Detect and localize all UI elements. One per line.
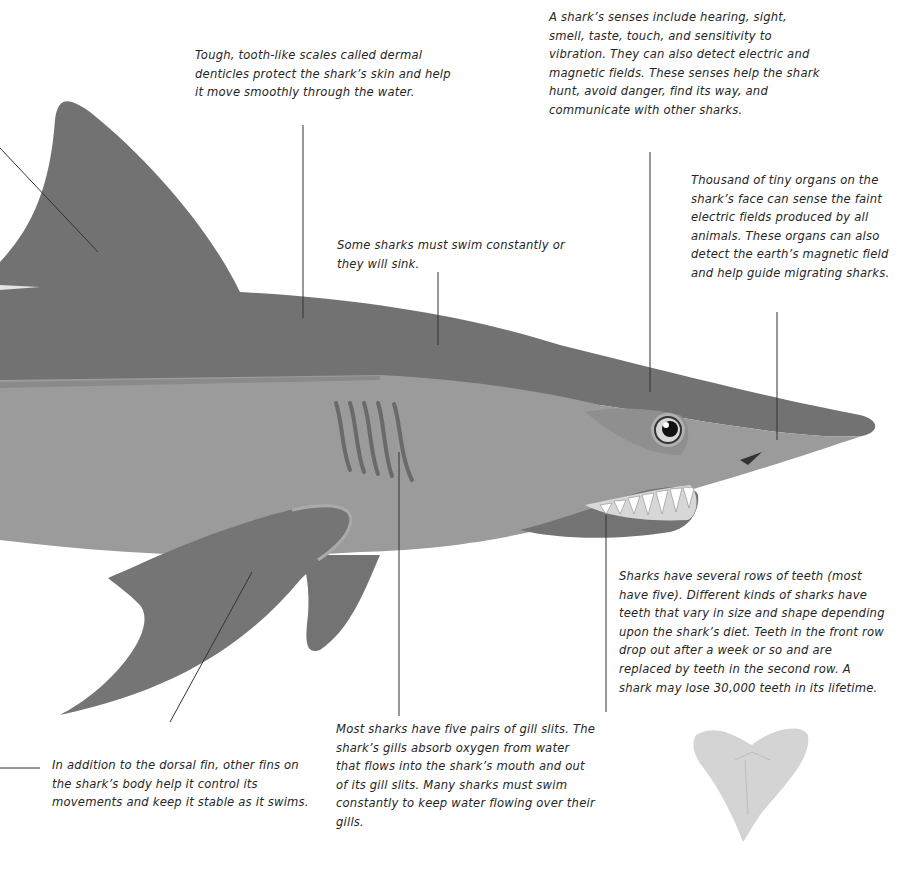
label-dermal-denticles: Tough, tooth-like scales called dermal d… (195, 46, 460, 102)
tooth (693, 728, 808, 842)
pelvic-fin (302, 555, 380, 651)
label-gill-slits: Most sharks have five pairs of gill slit… (336, 720, 596, 832)
label-fins: In addition to the dorsal fin, other fin… (52, 756, 317, 812)
label-swim-constantly: Some sharks must swim constantly or they… (337, 236, 587, 273)
label-teeth: Sharks have several rows of teeth (most … (619, 567, 887, 697)
label-electroreceptors: Thousand of tiny organs on the shark’s f… (691, 171, 906, 283)
label-senses: A shark’s senses include hearing, sight,… (549, 8, 821, 120)
dorsal-fin (0, 101, 240, 292)
